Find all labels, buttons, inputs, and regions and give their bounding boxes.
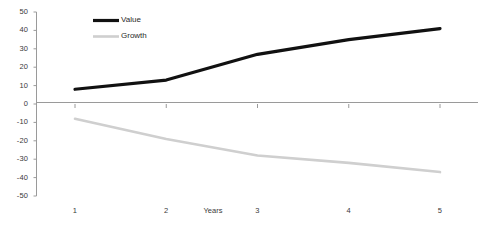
x-tick-label: 3 [246,206,270,215]
y-tick-label: 10 [4,81,28,90]
y-tick-label: 50 [4,7,28,16]
x-tick-label: 2 [154,206,178,215]
x-tick-label: 1 [63,206,87,215]
y-tick-label: -40 [4,173,28,182]
x-axis-title: Years [193,206,233,215]
series-line-growth [75,119,440,172]
y-tick-label: 0 [4,99,28,108]
y-tick-label: 20 [4,62,28,71]
x-axis-ticks [75,104,440,108]
y-tick-label: -10 [4,117,28,126]
y-tick-label: -50 [4,191,28,200]
legend-label-value: Value [121,15,141,24]
chart-plot-area [0,0,486,232]
y-tick-label: -30 [4,154,28,163]
x-tick-label: 4 [337,206,361,215]
y-tick-label: 30 [4,44,28,53]
legend-label-growth: Growth [121,31,147,40]
x-tick-label: 5 [428,206,452,215]
chart-container: 50403020100-10-20-30-40-50 12345 Years V… [0,0,486,232]
y-tick-label: 40 [4,25,28,34]
y-tick-label: -20 [4,136,28,145]
